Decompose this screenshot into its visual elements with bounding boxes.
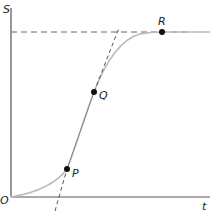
origin-label: O [0,194,9,207]
point-r-label: R [158,15,166,28]
x-axis-label: t [202,200,207,211]
sigmoid-curve [11,32,210,197]
growth-curve-diagram: S t O P Q R [0,0,210,211]
point-r [159,29,165,35]
tangent-line-solid [67,92,94,169]
point-q [91,89,97,95]
y-axis-label: S [3,3,10,16]
point-p [64,166,70,172]
point-p-label: P [72,167,79,180]
point-q-label: Q [99,89,108,102]
tangent-line-upper-dashed [94,28,119,92]
